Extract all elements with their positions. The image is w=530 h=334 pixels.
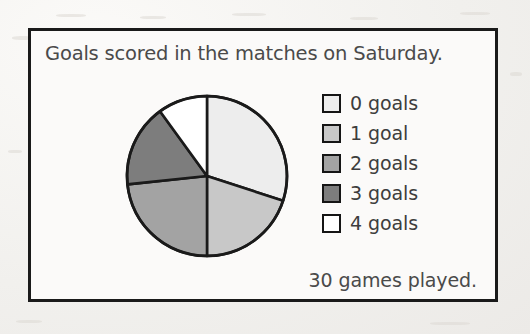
legend-item-0-goals[interactable]: 0 goals (322, 89, 418, 117)
legend-label-3-goals: 3 goals (350, 182, 418, 204)
chart-area: 0 goals 1 goal 2 goals 3 goals 4 goals 3… (31, 31, 495, 299)
legend-swatch-3-goals (322, 184, 341, 203)
chart-card: Goals scored in the matches on Saturday.… (28, 28, 498, 302)
legend-label-0-goals: 0 goals (350, 92, 418, 114)
legend-swatch-1-goal (322, 124, 341, 143)
legend-label-2-goals: 2 goals (350, 152, 418, 174)
legend-item-3-goals[interactable]: 3 goals (322, 179, 418, 207)
games-played-note: 30 games played. (309, 269, 477, 291)
legend-item-1-goal[interactable]: 1 goal (322, 119, 418, 147)
legend-label-4-goals: 4 goals (350, 212, 418, 234)
legend-item-2-goals[interactable]: 2 goals (322, 149, 418, 177)
legend-swatch-0-goals (322, 94, 341, 113)
legend: 0 goals 1 goal 2 goals 3 goals 4 goals (322, 89, 418, 237)
legend-label-1-goal: 1 goal (350, 122, 408, 144)
legend-swatch-4-goals (322, 214, 341, 233)
pie-chart (121, 90, 293, 262)
legend-item-4-goals[interactable]: 4 goals (322, 209, 418, 237)
legend-swatch-2-goals (322, 154, 341, 173)
